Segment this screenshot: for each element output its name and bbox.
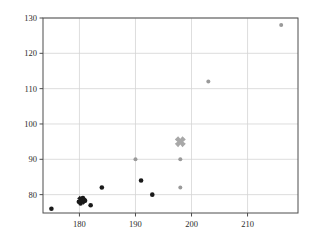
xtick-label-200: 200	[185, 219, 198, 229]
data-point-gray-circles-3	[206, 80, 210, 84]
data-point-gray-circles-1	[178, 157, 182, 161]
xtick-label-180: 180	[73, 219, 86, 229]
scatter-plot-figure: 1801902002108090100110120130	[0, 0, 310, 244]
data-point-black-circles-8	[150, 192, 155, 197]
ytick-label-110: 110	[25, 84, 37, 94]
data-point-black-circles-6	[100, 185, 105, 190]
data-point-gray-circles-2	[178, 186, 182, 190]
ytick-label-90: 90	[29, 154, 38, 164]
plot-canvas: 1801902002108090100110120130	[0, 0, 310, 244]
data-point-gray-circles-4	[279, 23, 283, 27]
ytick-label-130: 130	[24, 13, 37, 23]
ytick-label-80: 80	[29, 190, 38, 200]
data-point-gray-circles-0	[133, 157, 137, 161]
ytick-label-120: 120	[24, 48, 37, 58]
xtick-label-190: 190	[129, 219, 142, 229]
data-point-black-circles-5	[88, 203, 93, 208]
plot-background	[0, 0, 310, 244]
ytick-label-100: 100	[24, 119, 37, 129]
xtick-label-210: 210	[241, 219, 254, 229]
data-point-black-circles-0	[49, 206, 54, 211]
data-point-black-circles-7	[139, 178, 144, 183]
